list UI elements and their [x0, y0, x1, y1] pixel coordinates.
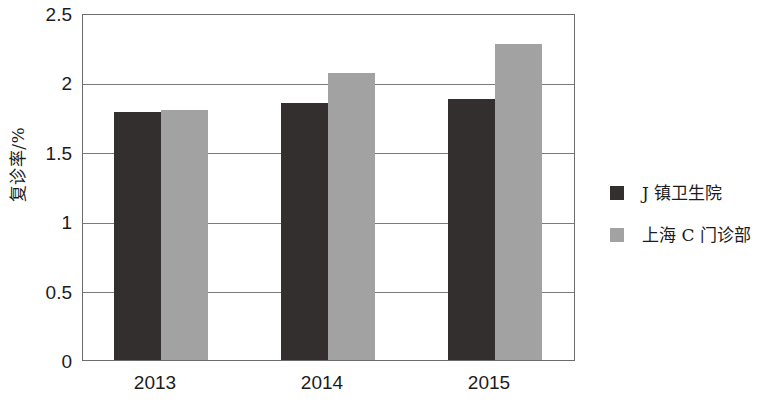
bar-2014-shanghai-c: [328, 73, 375, 360]
y-tick-label: 0: [16, 352, 72, 371]
y-axis-tick-labels: 2.5 2 1.5 1 0.5 0: [14, 0, 72, 404]
x-tick-label-2013: 2013: [95, 372, 215, 394]
y-tick-label: 2: [16, 74, 72, 93]
x-tick-label-2014: 2014: [262, 372, 382, 394]
y-tick-label: 1: [16, 213, 72, 232]
y-tick-label: 0.5: [16, 283, 72, 302]
legend-item-shanghai-c: 上海 C 门诊部: [610, 214, 778, 256]
legend-item-j-zhen: J 镇卫生院: [610, 172, 778, 214]
bar-2015-j-zhen: [448, 99, 495, 360]
legend: J 镇卫生院 上海 C 门诊部: [610, 172, 778, 256]
bar-chart: 复诊率/% 2.5 2 1.5 1 0.5 0 2013 2014 2015 J…: [0, 0, 778, 404]
bars-layer: [83, 15, 574, 360]
y-tick-label: 1.5: [16, 144, 72, 163]
legend-label: 上海 C 门诊部: [642, 226, 751, 245]
legend-swatch-icon: [610, 186, 624, 200]
bar-2015-shanghai-c: [495, 44, 542, 361]
legend-swatch-icon: [610, 228, 624, 242]
y-tick-label: 2.5: [16, 5, 72, 24]
x-tick-label-2015: 2015: [429, 372, 549, 394]
bar-2013-shanghai-c: [161, 110, 208, 360]
legend-label: J 镇卫生院: [642, 184, 722, 203]
bar-2014-j-zhen: [281, 103, 328, 360]
bar-2013-j-zhen: [114, 112, 161, 361]
plot-area: [82, 14, 575, 361]
